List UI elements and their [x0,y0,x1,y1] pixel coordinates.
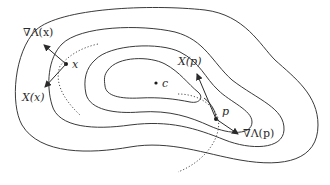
contour-3 [85,46,252,132]
point-c [154,81,157,84]
label-c: c [162,78,168,89]
label-field-x: X(x) [22,92,45,103]
label-x: x [72,59,78,70]
field-arrow-p [197,74,216,119]
dotted-curve-p [178,94,219,172]
field-arrow-x [45,64,66,87]
label-p: p [222,106,229,117]
label-grad-p: ∇Λ(p) [243,128,274,139]
label-grad-x: ∇Λ(x) [23,27,53,38]
grad-arrow-x [44,45,66,64]
dotted-curve-x [58,44,98,115]
label-field-p: X(p) [178,56,201,67]
